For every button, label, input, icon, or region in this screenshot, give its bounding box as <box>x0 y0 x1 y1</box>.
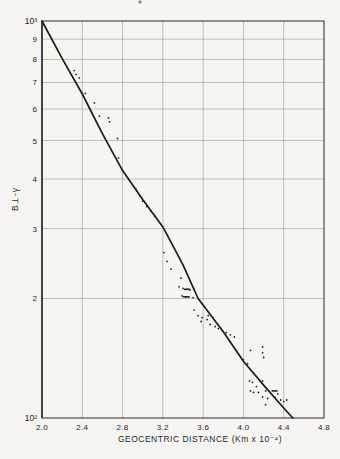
y-tick-label: 5 <box>33 137 38 146</box>
data-point <box>229 334 231 336</box>
x-tick-label: 2.8 <box>117 423 129 432</box>
data-point <box>212 317 214 319</box>
data-point <box>283 401 285 403</box>
x-tick-label: 4.8 <box>318 423 330 432</box>
data-point <box>258 392 260 394</box>
data-point <box>225 332 227 334</box>
x-tick-label: 3.6 <box>197 423 209 432</box>
data-point <box>253 392 255 394</box>
data-point <box>108 117 110 119</box>
data-point <box>252 381 254 383</box>
data-point <box>274 396 276 398</box>
data-point <box>256 386 258 388</box>
data-point <box>193 288 195 290</box>
data-point <box>200 321 202 323</box>
data-point <box>243 359 245 361</box>
data-point <box>154 216 156 218</box>
data-point <box>277 393 279 395</box>
data-point <box>221 330 223 332</box>
data-point <box>265 390 267 392</box>
data-point <box>286 399 288 401</box>
data-point <box>262 380 264 382</box>
data-point <box>73 70 75 72</box>
data-point <box>75 74 77 76</box>
data-point <box>150 210 152 212</box>
data-point <box>267 398 269 400</box>
y-tick-label: 9 <box>33 35 38 44</box>
data-point <box>265 404 267 406</box>
data-point <box>146 206 148 208</box>
x-tick-label: 4.0 <box>237 423 249 432</box>
data-point <box>250 390 252 392</box>
data-point <box>262 352 264 354</box>
data-point <box>207 315 209 317</box>
paper-background <box>0 0 340 459</box>
y-tick-label: 6 <box>33 105 38 114</box>
y-tick-label: 7 <box>33 78 38 87</box>
data-point <box>170 268 172 270</box>
data-point <box>263 357 265 359</box>
data-point <box>182 288 184 290</box>
data-point <box>109 121 111 123</box>
data-point <box>118 157 120 159</box>
data-point <box>139 195 141 197</box>
data-dash <box>184 289 190 291</box>
data-point <box>135 188 137 190</box>
data-point <box>99 115 101 117</box>
data-point <box>247 363 249 365</box>
data-point <box>217 328 219 330</box>
scan-artifact-mark <box>138 0 142 5</box>
data-point <box>180 277 182 279</box>
data-point <box>201 317 203 319</box>
data-point <box>280 399 282 401</box>
data-point <box>84 93 86 95</box>
data-point <box>234 336 236 338</box>
data-point <box>250 350 252 352</box>
y-axis-title: B⊥-γ <box>10 169 22 229</box>
data-point <box>142 200 144 202</box>
data-dash <box>272 390 278 392</box>
x-axis-title: GEOCENTRIC DISTANCE (Km x 10⁻⁴) <box>60 434 340 444</box>
semilog-chart-figure: 10³9876543210²2.02.42.83.23.64.04.44.8 B… <box>0 0 340 459</box>
y-tick-label: 4 <box>33 175 38 184</box>
x-tick-label: 4.4 <box>278 423 290 432</box>
y-tick-label: 10² <box>25 413 37 423</box>
data-point <box>262 346 264 348</box>
data-point <box>166 261 168 263</box>
data-point <box>178 286 180 288</box>
y-tick-label: 8 <box>33 55 38 64</box>
x-tick-label: 2.4 <box>76 423 88 432</box>
data-dash <box>183 296 189 298</box>
data-point <box>78 77 80 79</box>
data-point <box>209 324 211 326</box>
data-point <box>206 319 208 321</box>
y-tick-label: 10³ <box>25 16 37 26</box>
y-tick-label: 2 <box>33 294 38 303</box>
data-point <box>249 380 251 382</box>
data-point <box>197 315 199 317</box>
data-point <box>94 102 96 104</box>
x-tick-label: 2.0 <box>36 423 48 432</box>
data-point <box>193 309 195 311</box>
chart-canvas: 10³9876543210²2.02.42.83.23.64.04.44.8 <box>0 0 340 459</box>
data-point <box>192 297 194 299</box>
x-tick-label: 3.2 <box>157 423 169 432</box>
y-tick-label: 3 <box>33 225 38 234</box>
data-point <box>262 396 264 398</box>
data-point <box>181 295 183 297</box>
data-point <box>117 138 119 140</box>
data-point <box>214 326 216 328</box>
data-point <box>163 252 165 254</box>
